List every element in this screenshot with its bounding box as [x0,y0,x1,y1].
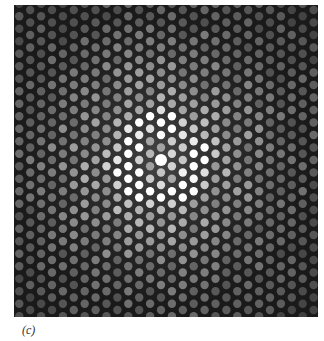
diffraction-spot [179,243,187,251]
diffraction-spot [309,156,317,164]
diffraction-spot [168,187,176,195]
diffraction-spot [59,12,67,20]
diffraction-spot [157,56,165,64]
diffraction-spot [244,218,252,226]
diffraction-spot [37,225,45,233]
diffraction-spot [244,131,252,139]
diffraction-spot [26,206,34,214]
diffraction-spot [179,281,187,289]
diffraction-spot [113,106,121,114]
diffraction-spot [37,275,45,283]
diffraction-spot [91,93,99,101]
diffraction-spot [222,131,230,139]
diffraction-spot [266,193,274,201]
diffraction-spot [255,100,263,108]
diffraction-spot [124,87,132,95]
diffraction-spot [37,187,45,195]
diffraction-spot [59,287,67,295]
diffraction-spot [233,300,241,308]
diffraction-spot [81,287,89,295]
diffraction-spot [70,293,78,301]
diffraction-spot [200,193,208,201]
diffraction-spot [244,293,252,301]
diffraction-spot [70,18,78,26]
diffraction-spot [26,118,34,126]
diffraction-spot [146,87,154,95]
diffraction-spot [299,87,307,95]
diffraction-spot [70,281,78,289]
diffraction-spot [277,162,285,170]
diffraction-spot [102,75,110,83]
diffraction-spot [244,93,252,101]
diffraction-spot [146,150,154,158]
diffraction-spot [179,106,187,114]
diffraction-spot [233,250,241,258]
diffraction-spot [190,312,198,317]
diffraction-spot [200,293,208,301]
diffraction-spot [277,37,285,45]
diffraction-spot [190,300,198,308]
diffraction-spot [70,193,78,201]
diffraction-spot [48,93,56,101]
diffraction-spot [146,137,154,145]
diffraction-spot [146,50,154,58]
diffraction-spot [81,212,89,220]
diffraction-spot [113,193,121,201]
diffraction-spot [277,212,285,220]
diffraction-spot [299,200,307,208]
diffraction-spot [157,81,165,89]
diffraction-spot [255,287,263,295]
diffraction-spot [146,125,154,133]
diffraction-spot [48,181,56,189]
diffraction-spot [200,256,208,264]
diffraction-spot [102,5,110,8]
diffraction-spot [179,81,187,89]
diffraction-spot [200,93,208,101]
diffraction-spot [146,162,154,170]
diffraction-spot [15,12,23,20]
diffraction-spot [266,256,274,264]
diffraction-spot [135,306,143,314]
diffraction-spot [26,18,34,26]
diffraction-spot [288,131,296,139]
diffraction-spot [168,200,176,208]
diffraction-spot [59,112,67,120]
diffraction-spot [309,106,317,114]
diffraction-spot [277,112,285,120]
diffraction-spot [288,256,296,264]
diffraction-spot [233,87,241,95]
diffraction-spot [222,256,230,264]
diffraction-spot [102,225,110,233]
diffraction-spot [179,18,187,26]
diffraction-spot [255,112,263,120]
diffraction-spot [70,218,78,226]
diffraction-spot [81,50,89,58]
diffraction-spot [48,131,56,139]
diffraction-spot [266,31,274,39]
diffraction-spot [59,187,67,195]
diffraction-spot [233,100,241,108]
diffraction-spot [146,175,154,183]
diffraction-spot [59,37,67,45]
diffraction-spot [190,200,198,208]
diffraction-spot [266,81,274,89]
diffraction-spot [266,181,274,189]
diffraction-spot [26,181,34,189]
diffraction-spot [155,154,167,166]
diffraction-spot [59,125,67,133]
diffraction-spot [135,106,143,114]
diffraction-spot [15,62,23,70]
diffraction-spot [113,181,121,189]
diffraction-spot [200,68,208,76]
diffraction-spot [309,193,317,201]
diffraction-spot [91,43,99,51]
diffraction-spot [211,75,219,83]
diffraction-spot [222,231,230,239]
diffraction-spot [113,131,121,139]
diffraction-spot [309,293,317,301]
diffraction-spot [26,231,34,239]
diffraction-spot [124,125,132,133]
diffraction-spot [266,206,274,214]
diffraction-spot [211,275,219,283]
diffraction-spot [146,37,154,45]
